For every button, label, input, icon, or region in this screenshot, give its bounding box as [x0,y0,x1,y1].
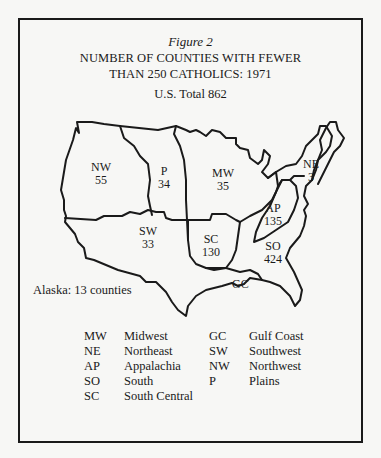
alaska-note: Alaska: 13 counties [33,283,132,298]
region-mw: MW 35 [212,167,234,193]
legend-item: PPlains [209,374,304,389]
border-sc-so [226,222,240,268]
border-nw-p [120,126,152,215]
legend-item: MWMidwest [84,329,193,344]
legend-right: GCGulf Coast SWSouthwest NWNorthwest PPl… [209,329,304,389]
region-sc: SC 130 [202,233,220,259]
region-ap: AP 135 [264,202,282,228]
legend-item: GCGulf Coast [209,329,304,344]
region-sw: SW 33 [139,225,157,251]
region-so: SO 424 [264,240,282,266]
legend-left: MWMidwest NENortheast APAppalachia SOSou… [84,329,193,404]
border-mw-ne [268,172,278,186]
legend-item: NENortheast [84,344,193,359]
region-ne: NE 3 [303,158,319,184]
legend-item: SCSouth Central [84,389,193,404]
region-nw: NW 55 [91,161,111,187]
legend-item: SWSouthwest [209,344,304,359]
border-north-south [65,210,240,222]
legend-item: APAppalachia [84,359,193,374]
legend-item: SOSouth [84,374,193,389]
legend-item: NWNorthwest [209,359,304,374]
border-p-mw [174,126,188,240]
region-gc: GC [232,278,249,291]
region-p: P 34 [158,165,170,191]
